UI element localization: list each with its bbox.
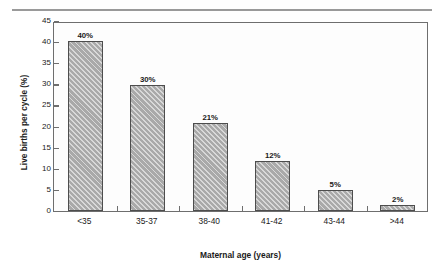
top-horizontal-rule [12, 9, 432, 11]
x-axis-tick-mark [117, 206, 118, 211]
y-axis-tick-label: 25 [27, 99, 51, 110]
bar-value-label: 21% [202, 113, 218, 122]
y-axis-tick-label: 20 [27, 121, 51, 132]
y-axis-tick-mark [54, 169, 59, 170]
x-axis-title: Maternal age (years) [53, 250, 428, 260]
x-axis-category-label: 38-40 [199, 216, 220, 226]
bar-value-label: 2% [392, 195, 403, 204]
x-axis-tick-mark [242, 206, 243, 211]
figure-container: Live births per cycle (%) 05101520253035… [0, 0, 441, 274]
bar-value-label: 12% [265, 151, 281, 160]
x-axis-tick-mark [179, 206, 180, 211]
y-axis-tick-mark [54, 21, 59, 22]
y-axis-tick-label: 45 [27, 15, 51, 26]
y-axis-tick-mark [54, 84, 59, 85]
y-axis-tick-mark [54, 190, 59, 191]
x-axis-category-label: <35 [77, 216, 91, 226]
plot-area: 05101520253035404540%30%21%12%5%2% [54, 23, 427, 211]
bar: 12% [255, 161, 290, 211]
y-axis-tick-label: 30 [27, 78, 51, 89]
bar: 30% [130, 85, 165, 211]
x-axis-tick-mark [304, 206, 305, 211]
x-axis-category-label: >44 [390, 216, 404, 226]
y-axis-tick-label: 35 [27, 57, 51, 68]
bar: 40% [68, 41, 103, 211]
y-axis-tick-mark [54, 105, 59, 106]
y-axis-tick-mark [54, 148, 59, 149]
y-axis-tick-mark [54, 211, 59, 212]
y-axis-tick-label: 40 [27, 36, 51, 47]
y-axis-tick-label: 15 [27, 142, 51, 153]
y-axis-tick-mark [54, 42, 59, 43]
x-axis-category-label: 43-44 [324, 216, 345, 226]
plot-frame: 05101520253035404540%30%21%12%5%2% [53, 22, 428, 212]
bar-value-label: 5% [330, 180, 341, 189]
bar: 5% [318, 190, 353, 211]
bar: 2% [380, 205, 415, 211]
bar-value-label: 30% [140, 75, 156, 84]
bar: 21% [193, 123, 228, 211]
y-axis-tick-label: 5 [27, 184, 51, 195]
y-axis-tick-label: 0 [27, 205, 51, 216]
y-axis-tick-label: 10 [27, 163, 51, 174]
y-axis-tick-mark [54, 63, 59, 64]
x-axis-category-label: 35-37 [136, 216, 157, 226]
x-axis-category-label: 41-42 [261, 216, 282, 226]
bar-value-label: 40% [77, 31, 93, 40]
y-axis-tick-mark [54, 127, 59, 128]
x-axis-tick-mark [367, 206, 368, 211]
